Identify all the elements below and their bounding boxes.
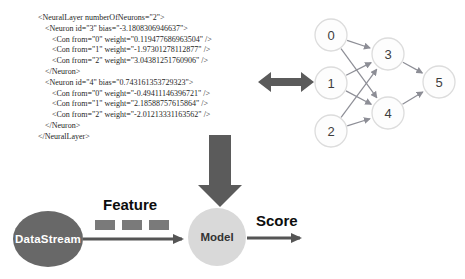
- network-node-label: 5: [435, 75, 442, 90]
- feature-label: Feature: [103, 196, 157, 213]
- datastream-node: DataStream: [13, 211, 83, 267]
- network-edge: [341, 69, 377, 117]
- network-edge: [403, 62, 422, 73]
- diagram-canvas: <NeuralLayer numberOfNeurons="2"><Neuron…: [0, 0, 465, 279]
- feature-dash: [122, 220, 142, 230]
- xml-line: <Con from="2" weight="-2.01213331163562"…: [38, 110, 263, 121]
- xml-code: <NeuralLayer numberOfNeurons="2"><Neuron…: [38, 13, 263, 143]
- network-edge: [403, 92, 423, 104]
- network-node-label: 1: [327, 76, 334, 91]
- xml-line: </Neuron>: [38, 121, 263, 132]
- xml-line: </Neuron>: [38, 67, 263, 78]
- feature-dash: [149, 220, 169, 230]
- xml-line: <Con from="1" weight="2.18588757615864" …: [38, 99, 263, 110]
- network-node-label: 3: [384, 47, 391, 62]
- network-node-label: 2: [327, 124, 334, 139]
- xml-line: <Con from="0" weight="0.119477686963504"…: [38, 35, 263, 46]
- xml-line: <Con from="1" weight="-1.97301278112877"…: [38, 45, 263, 56]
- score-label: Score: [256, 212, 298, 229]
- network-edge: [347, 119, 370, 126]
- model-label: Model: [200, 231, 233, 243]
- network-graph: 012345: [300, 8, 460, 158]
- network-node-label: 0: [327, 28, 334, 43]
- feature-dash: [95, 220, 115, 230]
- feature-dashes: [95, 220, 169, 230]
- xml-line: <NeuralLayer numberOfNeurons="2">: [38, 13, 263, 24]
- network-edge: [341, 49, 377, 98]
- xml-line: <Con from="2" weight="3.04381251760906" …: [38, 56, 263, 67]
- model-node: Model: [188, 208, 246, 266]
- xml-line: <Neuron id="4" bias="0.743161353729323">: [38, 78, 263, 89]
- network-edge: [347, 40, 370, 48]
- network-nodes: 012345: [315, 19, 455, 147]
- datastream-label: DataStream: [15, 233, 81, 245]
- xml-line: <Neuron id="3" bias="-3.1808306946637">: [38, 24, 263, 35]
- network-node-label: 4: [384, 106, 391, 121]
- xml-line: <Con from="0" weight="-0.49411146396721"…: [38, 89, 263, 100]
